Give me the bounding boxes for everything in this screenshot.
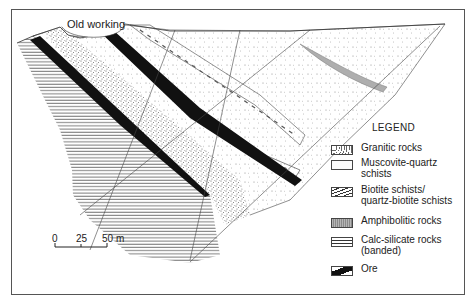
scale-tick-0: 0 xyxy=(52,233,58,244)
scale-tick-25: 25 xyxy=(76,233,87,244)
legend-item-calc-silicate: Calc-silicate rocks(banded) xyxy=(331,235,442,256)
granitic-swatch-icon xyxy=(331,145,353,155)
legend-item-biotite: Biotite schists/quartz-biotite schists xyxy=(331,185,452,206)
ore-swatch-icon xyxy=(331,266,353,276)
biotite-swatch-icon xyxy=(331,187,353,197)
legend-item-ore: Ore xyxy=(331,264,378,276)
legend-item-amphibolitic: Amphibolitic rocks xyxy=(331,216,442,228)
legend-item-muscovite: Muscovite-quartzschists xyxy=(331,158,437,179)
legend-title: LEGEND xyxy=(372,122,415,133)
calc-silicate-swatch-icon xyxy=(331,237,353,247)
old-working-label: Old working xyxy=(67,19,125,30)
amphibolitic-swatch-icon xyxy=(331,218,353,228)
muscovite-swatch-icon xyxy=(331,160,353,170)
scale-tick-50: 50 m xyxy=(102,233,124,244)
legend-item-granitic: Granitic rocks xyxy=(331,143,422,155)
